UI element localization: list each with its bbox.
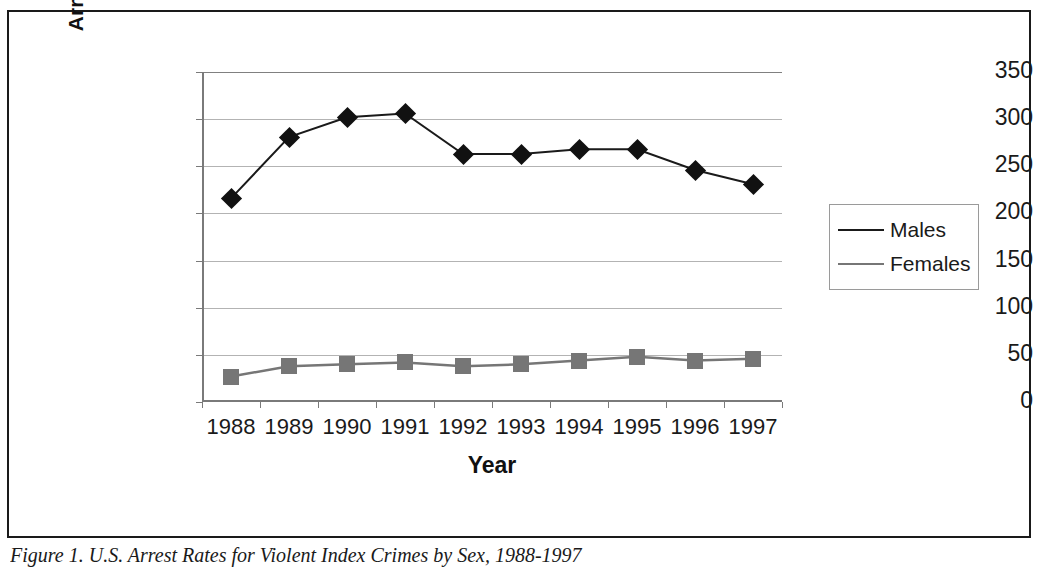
data-point-females-1996	[687, 353, 703, 369]
x-tick-label: 1990	[318, 414, 376, 440]
y-tick-label: 100	[854, 293, 1033, 320]
data-point-females-1995	[629, 349, 645, 365]
x-tick-label: 1995	[608, 414, 666, 440]
series-line-females	[231, 357, 753, 377]
data-point-females-1997	[745, 351, 761, 367]
chart-canvas: Arrests per 100,000 Total Population 050…	[9, 12, 1033, 540]
legend-entry-females: Females	[838, 247, 968, 281]
data-point-females-1989	[281, 358, 297, 374]
x-tick-mark	[724, 402, 725, 408]
data-point-females-1990	[339, 356, 355, 372]
x-tick-mark	[550, 402, 551, 408]
legend-entry-males: Males	[838, 213, 968, 247]
x-tick-label: 1988	[202, 414, 260, 440]
legend-key-males-icon	[838, 220, 884, 240]
x-axis-title: Year	[202, 452, 782, 479]
y-tick-label: 50	[854, 340, 1033, 367]
y-tick-label: 300	[854, 104, 1033, 131]
legend-label-males: Males	[890, 218, 946, 242]
x-tick-label: 1992	[434, 414, 492, 440]
x-tick-label: 1991	[376, 414, 434, 440]
data-point-females-1991	[397, 354, 413, 370]
x-tick-label: 1993	[492, 414, 550, 440]
x-tick-mark	[434, 402, 435, 408]
x-tick-mark	[492, 402, 493, 408]
x-tick-mark	[202, 402, 203, 408]
y-tick-label: 0	[854, 387, 1033, 414]
legend-key-females-icon	[838, 254, 884, 274]
series-line-males	[231, 113, 753, 198]
y-tick-label: 250	[854, 151, 1033, 178]
x-tick-mark	[782, 402, 783, 408]
data-point-females-1994	[571, 353, 587, 369]
x-tick-label: 1997	[724, 414, 782, 440]
x-tick-mark	[318, 402, 319, 408]
figure-frame: Arrests per 100,000 Total Population 050…	[7, 10, 1031, 538]
data-point-females-1993	[513, 356, 529, 372]
x-tick-mark	[608, 402, 609, 408]
y-tick-label: 350	[854, 57, 1033, 84]
x-tick-label: 1996	[666, 414, 724, 440]
x-tick-label: 1994	[550, 414, 608, 440]
data-point-females-1992	[455, 358, 471, 374]
legend-label-females: Females	[890, 252, 971, 276]
data-point-females-1988	[223, 369, 239, 385]
x-tick-mark	[666, 402, 667, 408]
x-tick-mark	[376, 402, 377, 408]
chart-legend: Males Females	[829, 204, 979, 290]
x-tick-label: 1989	[260, 414, 318, 440]
y-axis-title: Arrests per 100,000 Total Population	[57, 0, 113, 72]
figure-caption: Figure 1. U.S. Arrest Rates for Violent …	[10, 544, 1030, 567]
x-tick-mark	[260, 402, 261, 408]
y-axis-title-text: Arrests per 100,000 Total Population	[63, 0, 113, 72]
plot-area	[202, 72, 782, 402]
